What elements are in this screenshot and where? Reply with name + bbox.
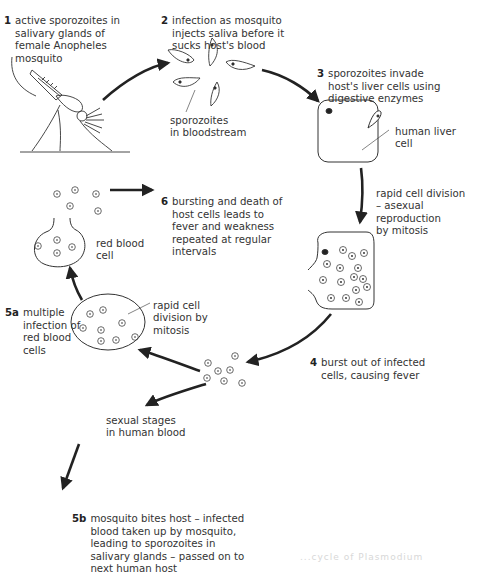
step-4-text: burst out of infected cells, causing fev… [321,357,425,382]
step-6-text: bursting and death of host cells leads t… [172,196,282,258]
step-6-label: 6bursting and death of host cells leads … [161,184,282,271]
infected-red-blood-cell-icon [71,294,150,350]
step-5a-text: multiple infection of red blood cells [23,307,80,357]
step-1-text: active sporozoites in salivary glands of… [15,15,120,65]
infected-liver-cell-icon [308,232,374,309]
human-liver-cell-label: human liver cell [395,126,456,151]
step-3-label: 3sporozoites invade host's liver cells u… [317,56,440,118]
step-4-label: 4burst out of infected cells, causing fe… [310,345,425,395]
step-2-text: infection as mosquito injects saliva bef… [172,15,284,52]
step-5a-label: 5amultiple infection of red blood cells [5,295,80,369]
step-5b-label: 5bmosquito bites host – infected blood t… [72,501,244,576]
step-2-label: 2infection as mosquito injects saliva be… [161,3,284,65]
figure-caption: ...cycle of Plasmodium [300,552,423,562]
merozoite-dots-icon [320,247,371,306]
step-5b-text: mosquito bites host – infected blood tak… [90,513,244,575]
sexual-stages-label: sexual stages in human blood [106,415,186,440]
sporozoites-bloodstream-label: sporozoites in bloodstream [170,115,246,140]
mitosis-division-label: rapid cell division by mitosis [153,300,208,337]
asexual-reproduction-label: rapid cell division – asexual reproducti… [376,188,478,238]
step-1-label: 1active sporozoites in salivary glands o… [4,3,120,77]
red-blood-cell-label: red blood cell [96,238,144,263]
step-3-text: sporozoites invade host's liver cells us… [328,68,440,105]
